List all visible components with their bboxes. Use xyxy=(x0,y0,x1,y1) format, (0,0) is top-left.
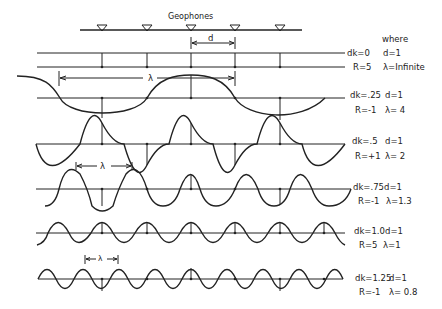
r-value: R=-1 xyxy=(359,287,381,297)
r-value: R=-1 xyxy=(358,196,380,206)
lambda-label-row2: λ xyxy=(146,73,155,83)
geophones-label: Geophones xyxy=(168,12,213,21)
dk-value: dk=.5 xyxy=(352,136,378,146)
lambda-label-row3: λ xyxy=(99,161,106,171)
r-value: R=5 xyxy=(353,62,371,72)
lambda-value: λ= 0.8 xyxy=(389,287,417,297)
row-dk-125 xyxy=(38,255,343,291)
r-value: R=-1 xyxy=(355,105,377,115)
d-value: d=1 xyxy=(384,182,402,192)
dk-value: dk=1.0 xyxy=(354,226,385,236)
where-label: where xyxy=(382,34,408,44)
lambda-value: λ=1.3 xyxy=(386,196,412,206)
d-value: d=1 xyxy=(389,273,407,283)
r-value: R=5 xyxy=(359,240,377,250)
d-value: d=1 xyxy=(383,48,401,58)
row-dk-025 xyxy=(17,71,345,120)
d-value: d=1 xyxy=(385,226,403,236)
d-value: d=1 xyxy=(385,136,403,146)
d-value: d=1 xyxy=(385,90,403,100)
dk-value: dk=1.25 xyxy=(355,273,391,283)
row-dk-075 xyxy=(36,169,351,211)
lambda-value: λ=1 xyxy=(383,240,401,250)
lambda-value: λ= 2 xyxy=(385,151,405,161)
lambda-value: λ= 4 xyxy=(385,105,405,115)
r-value: R=+1 xyxy=(355,151,381,161)
lambda-label-row6: λ xyxy=(98,254,102,264)
dk-value: dk=.75 xyxy=(353,182,384,192)
dk-value: dk=0 xyxy=(347,48,370,58)
spacing-d-label: d xyxy=(208,33,213,43)
lambda-value: λ=Infinite xyxy=(383,62,425,72)
dk-value: dk=.25 xyxy=(350,90,381,100)
row-dk-0 xyxy=(37,53,345,67)
